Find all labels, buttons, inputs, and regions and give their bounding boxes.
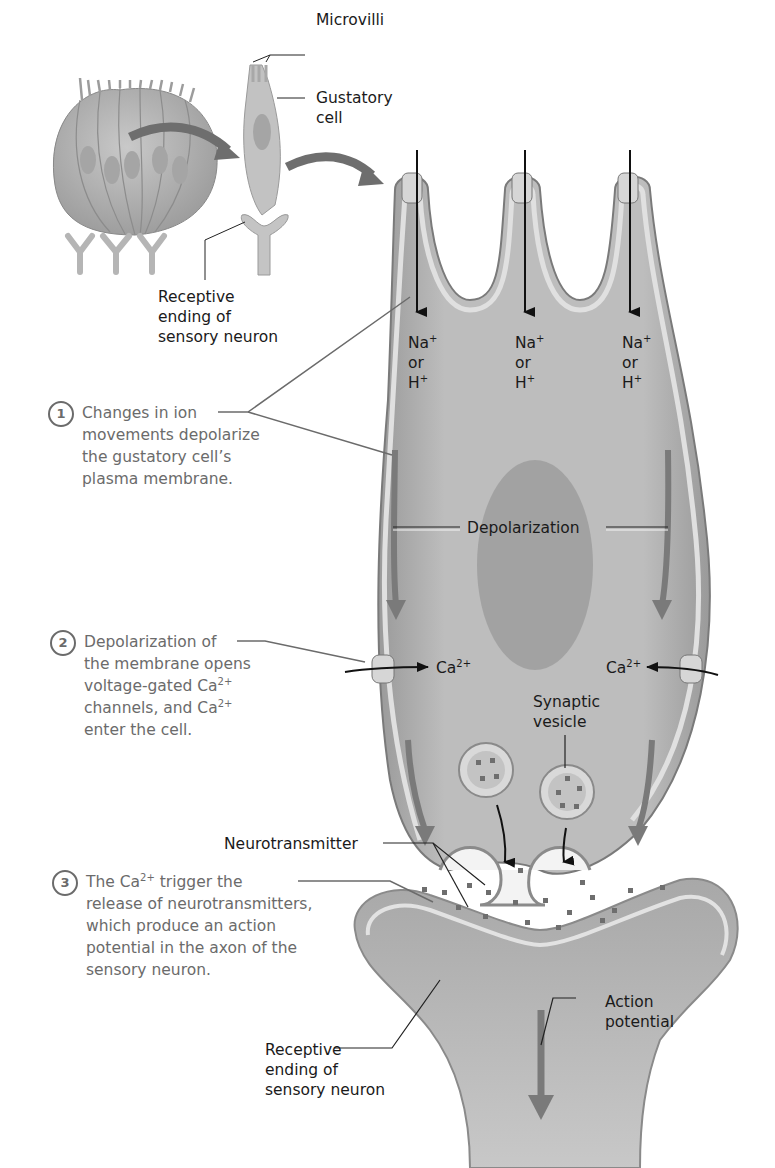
ion-or: or: [622, 353, 651, 373]
ion-label-2: Na+ or H+: [515, 333, 544, 393]
step-3-line: The Ca2+ trigger the: [86, 871, 312, 893]
step-2-line: the membrane opens: [84, 653, 251, 675]
ion-charge: +: [429, 333, 437, 344]
single-gustatory-cell: [241, 65, 288, 275]
ca-base: Ca: [436, 659, 456, 677]
step-2-sup: 2+: [218, 698, 233, 709]
synaptic-vesicle-line1: Synaptic: [533, 692, 600, 712]
step-number-badge: 2: [50, 630, 76, 656]
calcium-label-right: Ca2+: [606, 658, 641, 678]
receptive-ending-bottom-line2: ending of: [265, 1060, 385, 1080]
step-3: 3 The Ca2+ trigger the release of neurot…: [86, 871, 312, 981]
step-3-text: trigger the: [155, 873, 243, 891]
large-gustatory-cell: [372, 173, 710, 905]
step-2-text: channels, and Ca: [84, 699, 218, 717]
action-potential-line2: potential: [605, 1012, 674, 1032]
step-2-line: enter the cell.: [84, 719, 251, 741]
receptive-ending-label-top: Receptive ending of sensory neuron: [158, 287, 278, 347]
ion-alt-charge: +: [420, 373, 428, 384]
ion-or: or: [408, 353, 437, 373]
action-potential-label: Action potential: [605, 992, 674, 1032]
step-3-line: release of neurotransmitters,: [86, 893, 312, 915]
ion-alt-species: H: [515, 374, 527, 392]
step-number-badge: 1: [48, 401, 74, 427]
step-3-line: potential in the axon of the: [86, 937, 312, 959]
step-number-badge: 3: [52, 870, 78, 896]
zoom-arrow-2: [287, 157, 372, 175]
step-3-line: which produce an action: [86, 915, 312, 937]
nucleus: [477, 460, 593, 670]
receptive-ending-top-line1: Receptive: [158, 287, 278, 307]
step-2-line: Depolarization of: [84, 631, 251, 653]
receptive-ending-top-line3: sensory neuron: [158, 327, 278, 347]
step-1-line: the gustatory cell’s: [82, 446, 260, 468]
step-2-sup: 2+: [218, 676, 233, 687]
ion-alt-species: H: [622, 374, 634, 392]
receptive-ending-label-bottom: Receptive ending of sensory neuron: [265, 1040, 385, 1100]
step-3-text: The Ca: [86, 873, 140, 891]
ca-charge: 2+: [626, 658, 641, 669]
ion-alt-charge: +: [527, 373, 535, 384]
ion-or: or: [515, 353, 544, 373]
calcium-label-left: Ca2+: [436, 658, 471, 678]
ion-species: Na: [408, 334, 429, 352]
taste-bud-illustration: [53, 78, 217, 272]
ion-alt-charge: +: [634, 373, 642, 384]
neurotransmitter-label: Neurotransmitter: [224, 834, 358, 854]
depolarization-label: Depolarization: [467, 518, 580, 538]
step-2-text: voltage-gated Ca: [84, 677, 218, 695]
ion-species: Na: [622, 334, 643, 352]
ion-charge: +: [536, 333, 544, 344]
step-1: 1 Changes in ion movements depolarize th…: [82, 402, 260, 490]
microvilli-label: Microvilli: [316, 10, 384, 30]
synaptic-vesicle-label: Synaptic vesicle: [533, 692, 600, 732]
ion-label-1: Na+ or H+: [408, 333, 437, 393]
receptive-ending-bottom-line1: Receptive: [265, 1040, 385, 1060]
step-2-line: channels, and Ca2+: [84, 697, 251, 719]
ion-alt-species: H: [408, 374, 420, 392]
receptive-ending-top-line2: ending of: [158, 307, 278, 327]
sensory-neuron-ending: [355, 868, 738, 1168]
gustatory-cell-label-line2: cell: [316, 108, 393, 128]
step-3-line: sensory neuron.: [86, 959, 312, 981]
ca-base: Ca: [606, 659, 626, 677]
step-3-sup: 2+: [140, 872, 155, 883]
ion-charge: +: [643, 333, 651, 344]
action-potential-line1: Action: [605, 992, 674, 1012]
step-2: 2 Depolarization of the membrane opens v…: [84, 631, 251, 741]
gustatory-cell-label-line1: Gustatory: [316, 88, 393, 108]
ion-label-3: Na+ or H+: [622, 333, 651, 393]
receptive-ending-bottom-line3: sensory neuron: [265, 1080, 385, 1100]
step-1-line: movements depolarize: [82, 424, 260, 446]
step-1-line: Changes in ion: [82, 402, 260, 424]
synaptic-vesicle-line2: vesicle: [533, 712, 600, 732]
gustatory-cell-label: Gustatory cell: [316, 88, 393, 128]
ca-charge: 2+: [456, 658, 471, 669]
step-2-line: voltage-gated Ca2+: [84, 675, 251, 697]
ion-species: Na: [515, 334, 536, 352]
step-1-line: plasma membrane.: [82, 468, 260, 490]
